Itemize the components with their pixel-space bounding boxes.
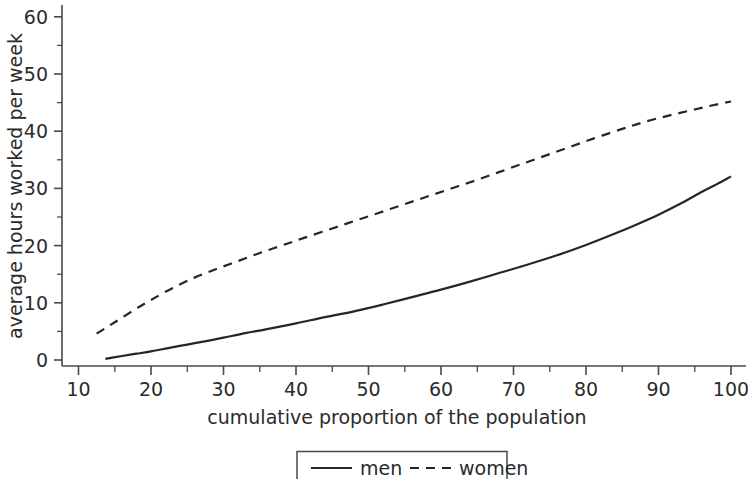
chart-figure: 0 10 20 30 40 50 60 10 20 [0,0,748,479]
x-tick-label: 90 [646,378,670,400]
series-line-women [97,101,731,333]
y-tick-label: 0 [36,349,48,371]
legend-label-men: men [360,457,402,479]
y-tick-label: 20 [24,235,48,257]
x-tick-label: 30 [211,378,235,400]
series-line-men [105,176,731,358]
x-axis-title: cumulative proportion of the population [207,406,586,428]
x-tick-label: 70 [501,378,525,400]
y-axis-ticks: 0 10 20 30 40 50 60 [24,6,62,371]
legend-label-women: women [459,457,528,479]
x-tick-label: 40 [284,378,308,400]
y-tick-label: 30 [24,177,48,199]
y-tick-label: 60 [24,6,48,28]
y-axis-title: average hours worked per week [4,33,26,339]
series-group [97,101,731,358]
x-tick-label: 20 [139,378,163,400]
x-tick-label: 10 [66,378,90,400]
y-tick-label: 10 [24,292,48,314]
y-tick-label: 40 [24,120,48,142]
y-tick-label: 50 [24,63,48,85]
legend: men women [297,452,528,479]
x-tick-label: 100 [713,378,748,400]
x-tick-label: 50 [356,378,380,400]
x-tick-label: 80 [574,378,598,400]
x-tick-label: 60 [429,378,453,400]
x-axis-ticks: 10 20 30 40 50 60 70 80 90 [66,366,748,400]
chart-canvas: 0 10 20 30 40 50 60 10 20 [0,0,748,479]
